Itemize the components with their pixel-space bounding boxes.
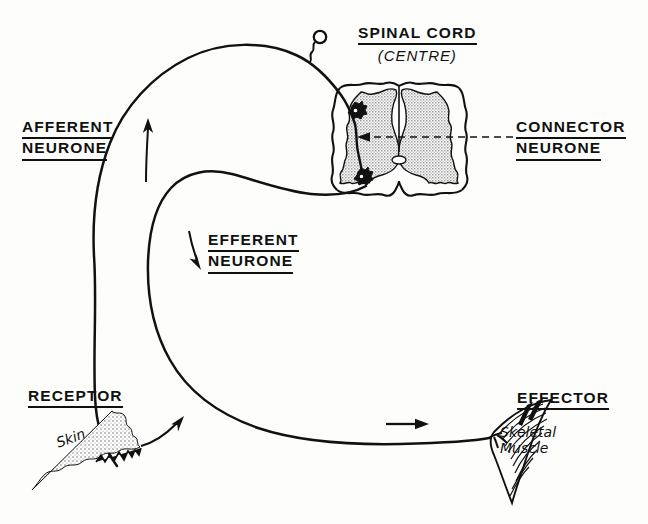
label-muscle-line1: Skeletal bbox=[500, 425, 556, 441]
label-skeletal-muscle: Skeletal Muscle bbox=[500, 425, 556, 456]
label-spinal-cord: SPINAL CORD (CENTRE) bbox=[358, 24, 477, 65]
afferent-direction-arrow bbox=[143, 118, 153, 182]
label-receptor-line1: RECEPTOR bbox=[28, 387, 123, 408]
label-efferent-line1: EFFERENT bbox=[208, 231, 299, 252]
label-connector-neurone: CONNECTOR NEURONE bbox=[516, 118, 626, 161]
central-canal bbox=[392, 156, 406, 164]
dorsal-root-ganglion-cell-body bbox=[310, 31, 326, 62]
label-receptor: RECEPTOR bbox=[28, 387, 123, 408]
spinal-cord-cross-section bbox=[331, 82, 467, 195]
receptor-impulse-arrow bbox=[141, 416, 184, 446]
skin-receptor bbox=[32, 411, 141, 490]
skin-band bbox=[32, 411, 140, 490]
label-spinal-cord-line2: (CENTRE) bbox=[358, 45, 477, 65]
label-efferent-line2: NEURONE bbox=[208, 252, 293, 273]
efferent-direction-arrow bbox=[189, 231, 201, 270]
label-connector-line2: NEURONE bbox=[516, 139, 601, 160]
label-muscle-line2: Muscle bbox=[500, 441, 556, 457]
label-connector-line1: CONNECTOR bbox=[516, 118, 626, 139]
efferent-neurone-fibre bbox=[148, 171, 489, 444]
effector-impulse-arrow bbox=[386, 419, 429, 430]
cord-outline-right bbox=[459, 88, 468, 190]
label-afferent-line2: NEURONE bbox=[22, 139, 107, 160]
label-efferent-neurone: EFFERENT NEURONE bbox=[208, 231, 299, 274]
label-spinal-cord-line1: SPINAL CORD bbox=[358, 24, 477, 45]
label-afferent-neurone: AFFERENT NEURONE bbox=[22, 118, 113, 161]
cord-outline-left bbox=[331, 88, 340, 190]
label-effector: EFFECTOR bbox=[517, 389, 609, 410]
reflex-arc-diagram: SPINAL CORD (CENTRE) AFFERENT NEURONE CO… bbox=[0, 0, 648, 524]
label-effector-line1: EFFECTOR bbox=[517, 389, 609, 410]
label-afferent-line1: AFFERENT bbox=[22, 118, 113, 139]
